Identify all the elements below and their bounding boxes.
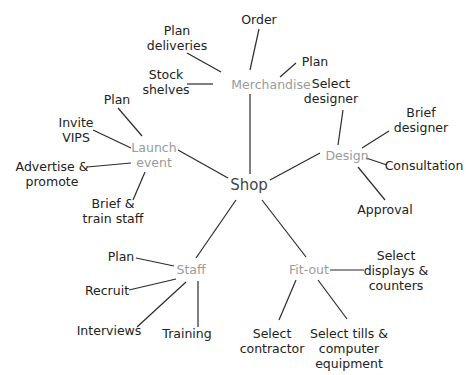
leaf-node-invite-vips[interactable]: Invite VIPS [58,115,93,145]
leaf-label-line: promote [16,174,89,189]
leaf-node-brief-train-staff[interactable]: Brief & train staff [83,196,144,226]
branch-label: Staff [176,262,205,277]
leaf-node-consultation[interactable]: Consultation [385,158,464,173]
leaf-label-line: Brief [394,105,448,120]
leaf-label-line: equipment [310,356,388,371]
leaf-label-line: designer [394,120,448,135]
leaf-label: Recruit [85,283,129,298]
leaf-node-order[interactable]: Order [241,12,277,27]
mind-map-canvas: Shop Merchandise Order Plan Plan deliver… [0,0,466,375]
branch-label: Merchandise [231,77,310,92]
leaf-node-training[interactable]: Training [162,326,211,341]
leaf-node-brief-designer[interactable]: Brief designer [394,105,448,135]
leaf-node-recruit[interactable]: Recruit [85,283,129,298]
leaf-label-line: VIPS [58,130,93,145]
leaf-label-line: train staff [83,211,144,226]
leaf-node-select-contractor[interactable]: Select contractor [240,326,305,356]
leaf-label-line: Plan [147,23,207,38]
branch-label-line: Launch [131,140,176,155]
root-node-shop[interactable]: Shop [230,178,268,193]
branch-node-launch-event[interactable]: Launch event [131,140,176,170]
leaf-label: Plan [302,54,329,69]
leaf-label-line: displays & [364,263,429,278]
leaf-node-interviews[interactable]: Interviews [77,323,142,338]
leaf-label-line: Invite [58,115,93,130]
leaf-node-select-displays[interactable]: Select displays & counters [364,248,429,293]
branch-label: Design [325,148,368,163]
leaf-label: Training [162,326,211,341]
leaf-label: Interviews [77,323,142,338]
leaf-label-line: contractor [240,341,305,356]
leaf-node-plan-deliveries[interactable]: Plan deliveries [147,23,207,53]
leaf-label-line: Advertise & [16,159,89,174]
leaf-label-line: shelves [142,82,189,97]
branch-node-staff[interactable]: Staff [176,262,205,277]
root-label: Shop [230,176,268,194]
leaf-node-approval[interactable]: Approval [357,202,412,217]
leaf-label: Consultation [385,158,464,173]
branch-label-line: event [131,155,176,170]
leaf-label: Plan [104,92,131,107]
branch-node-fit-out[interactable]: Fit-out [289,262,329,277]
leaf-label: Plan [108,249,135,264]
leaf-label-line: designer [304,91,358,106]
leaf-label-line: Select [304,76,358,91]
branch-label: Fit-out [289,262,329,277]
leaf-label: Approval [357,202,412,217]
leaf-label-line: Select tills & [310,326,388,341]
leaf-node-advertise-promote[interactable]: Advertise & promote [16,159,89,189]
branch-node-merchandise[interactable]: Merchandise [231,77,310,92]
leaf-node-select-tills[interactable]: Select tills & computer equipment [310,326,388,371]
leaf-label-line: Stock [142,67,189,82]
leaf-label: Order [241,12,277,27]
leaf-label-line: deliveries [147,38,207,53]
leaf-node-launch-plan[interactable]: Plan [104,92,131,107]
leaf-label-line: counters [364,278,429,293]
leaf-node-merch-plan[interactable]: Plan [302,54,329,69]
branch-node-design[interactable]: Design [325,148,368,163]
leaf-node-stock-shelves[interactable]: Stock shelves [142,67,189,97]
leaf-node-staff-plan[interactable]: Plan [108,249,135,264]
leaf-label-line: Select [240,326,305,341]
leaf-label-line: computer [310,341,388,356]
leaf-node-select-designer[interactable]: Select designer [304,76,358,106]
leaf-label-line: Brief & [83,196,144,211]
leaf-label-line: Select [364,248,429,263]
